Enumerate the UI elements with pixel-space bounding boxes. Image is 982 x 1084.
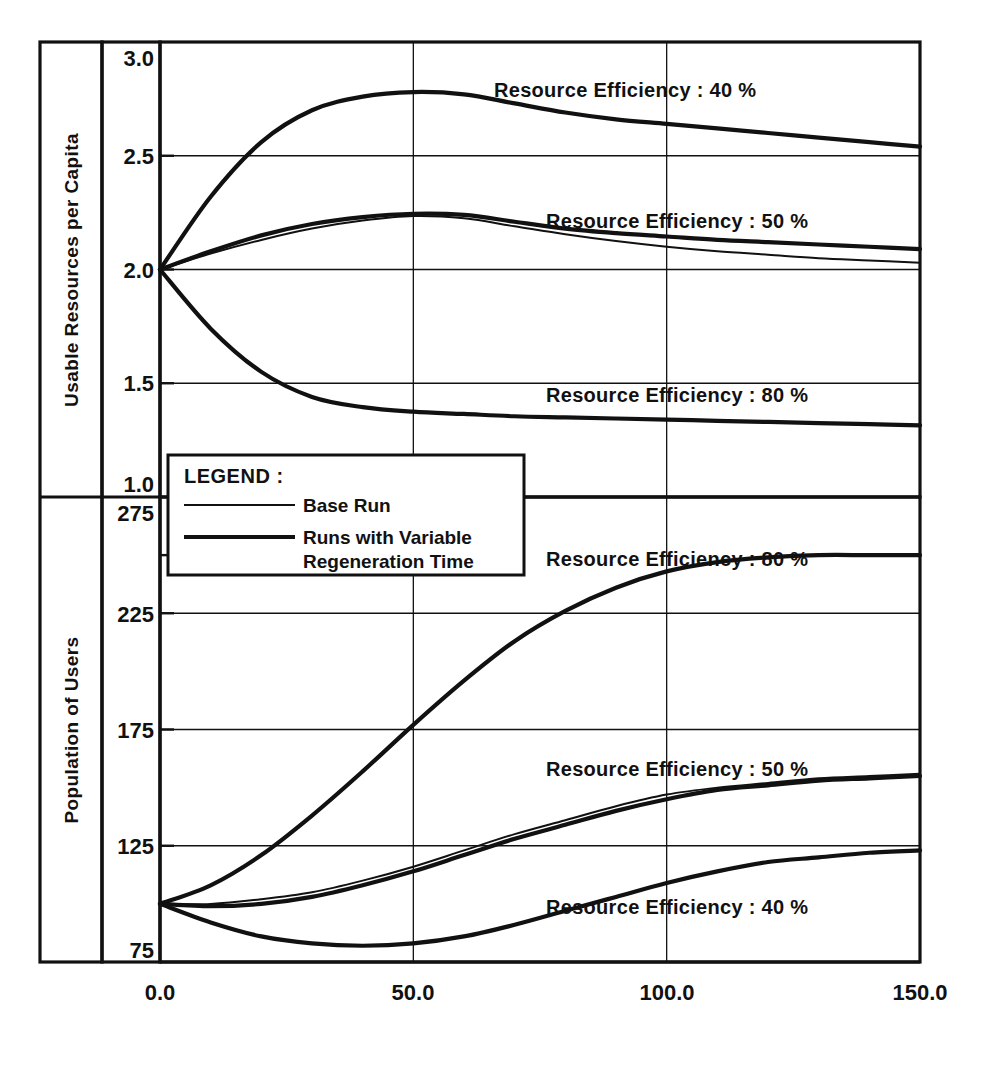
- ytick-bottom-225: 225: [117, 602, 154, 627]
- ytick-top-2-5: 2.5: [123, 144, 154, 169]
- panel-top: Resource Efficiency : 40 % Resource Effi…: [160, 42, 920, 497]
- legend-label-variable-run-line1: Runs with Variable: [303, 527, 472, 548]
- ytick-bottom-175: 175: [117, 718, 154, 743]
- y-tick-labels-top: 3.0 2.5 2.0 1.5 1.0: [123, 46, 154, 497]
- ytick-bottom-75: 75: [130, 938, 154, 963]
- curve-bottom-2: [160, 774, 920, 905]
- annotation-bottom-80: Resource Efficiency : 80 %: [546, 548, 808, 570]
- ytick-top-1-0: 1.0: [123, 472, 154, 497]
- ytick-top-2-0: 2.0: [123, 258, 154, 283]
- annotation-bottom-50: Resource Efficiency : 50 %: [546, 758, 808, 780]
- ytick-top-3-0: 3.0: [123, 46, 154, 71]
- ytick-bottom-275: 275: [117, 501, 154, 526]
- ytick-bottom-125: 125: [117, 834, 154, 859]
- y-tick-labels-bottom: 275 225 175 125 75: [117, 501, 154, 963]
- legend: LEGEND : Base Run Runs with Variable Reg…: [168, 455, 524, 575]
- annotation-top-50: Resource Efficiency : 50 %: [546, 210, 808, 232]
- curve-bottom-1: [160, 776, 920, 906]
- y-axis-title-bottom: Population of Users: [61, 636, 82, 823]
- legend-title: LEGEND :: [184, 465, 284, 487]
- figure-root: Resource Efficiency : 40 % Resource Effi…: [0, 0, 982, 1084]
- y-axis-title-top: Usable Resources per Capita: [61, 133, 82, 407]
- x-axis: 0.0 50.0 100.0 150.0: [145, 962, 948, 1005]
- legend-label-base-run: Base Run: [303, 495, 391, 516]
- annotation-top-80: Resource Efficiency : 80 %: [546, 384, 808, 406]
- top-curves: [160, 92, 920, 425]
- xtick-0: 0.0: [145, 980, 176, 1005]
- xtick-50: 50.0: [392, 980, 435, 1005]
- xtick-100: 100.0: [639, 980, 694, 1005]
- ytick-top-1-5: 1.5: [123, 371, 154, 396]
- chart-svg: Resource Efficiency : 40 % Resource Effi…: [0, 0, 982, 1084]
- annotation-bottom-40: Resource Efficiency : 40 %: [546, 896, 808, 918]
- xtick-150: 150.0: [892, 980, 947, 1005]
- annotation-top-40: Resource Efficiency : 40 %: [494, 79, 756, 101]
- legend-label-variable-run-line2: Regeneration Time: [303, 551, 474, 572]
